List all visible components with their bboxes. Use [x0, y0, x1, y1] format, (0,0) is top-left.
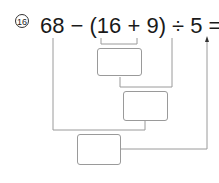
math-expression: 68 − (16 + 9) ÷ 5 = [40, 14, 219, 38]
answer-box-step1[interactable] [97, 48, 142, 76]
answer-box-step2[interactable] [123, 91, 168, 121]
answer-box-step3[interactable] [77, 134, 121, 165]
calculation-diagram: 16 68 − (16 + 9) ÷ 5 = [0, 0, 219, 183]
problem-number-badge: 16 [15, 14, 29, 28]
bracket-16-plus-9 [101, 38, 137, 44]
